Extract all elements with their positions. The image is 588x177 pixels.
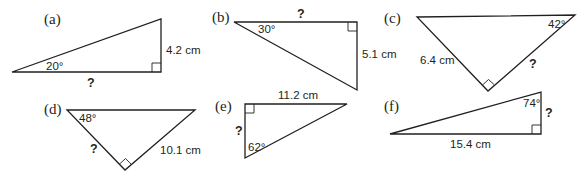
- given-side-d: 10.1 cm: [160, 145, 201, 157]
- triangle-b: [234, 22, 357, 90]
- given-side-c: 6.4 cm: [420, 55, 455, 67]
- unknown-side-c: ?: [529, 58, 537, 71]
- label-a: (a): [44, 12, 61, 27]
- given-side-f: 15.4 cm: [450, 139, 491, 151]
- label-f: (f): [384, 99, 399, 114]
- unknown-side-d: ?: [90, 143, 98, 156]
- right-angle-marker-a: [152, 63, 161, 72]
- angle-label-a: 20°: [46, 61, 63, 73]
- given-side-e: 11.2 cm: [278, 90, 318, 102]
- right-angle-marker-c: [483, 80, 495, 86]
- given-side-b: 5.1 cm: [362, 49, 397, 61]
- right-angle-marker-f: [532, 125, 541, 134]
- right-angle-marker-b: [348, 22, 357, 31]
- unknown-side-f: ?: [545, 107, 553, 120]
- unknown-side-a: ?: [87, 77, 95, 90]
- label-c: (c): [384, 11, 401, 26]
- triangle-f: [390, 92, 541, 134]
- label-e: (e): [215, 99, 232, 114]
- unknown-side-b: ?: [297, 8, 305, 21]
- unknown-side-e: ?: [235, 125, 243, 138]
- given-side-a: 4.2 cm: [166, 45, 201, 57]
- right-angle-marker-d: [119, 159, 131, 165]
- right-angle-marker-e: [245, 104, 254, 113]
- angle-label-e: 62°: [248, 142, 265, 154]
- label-b-tag: (b): [212, 10, 230, 25]
- triangle-a: [12, 19, 161, 72]
- angle-label-c: 42°: [548, 19, 565, 31]
- angle-label-d: 48°: [79, 113, 96, 125]
- label-d: (d): [44, 102, 62, 117]
- angle-label-b: 30°: [258, 24, 275, 36]
- angle-label-f: 74°: [523, 98, 540, 110]
